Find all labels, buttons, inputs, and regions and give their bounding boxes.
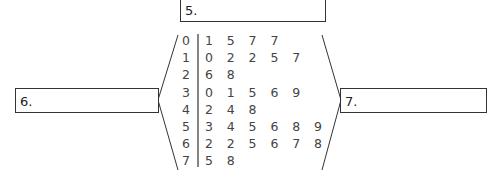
leaf-value: 4 — [225, 102, 237, 117]
stem-value: 5 — [180, 119, 192, 134]
leaf-value: 5 — [247, 136, 259, 151]
leaf-value: 5 — [203, 153, 215, 168]
box-label: 6. — [20, 94, 32, 109]
answer-box-6[interactable]: 6. — [15, 88, 159, 113]
leaf-value: 2 — [225, 136, 237, 151]
box-label: 5. — [185, 3, 197, 18]
stem-value: 6 — [180, 136, 192, 151]
leaf-value: 6 — [268, 136, 280, 151]
leaf-value: 8 — [290, 119, 302, 134]
leaf-value: 6 — [203, 67, 215, 82]
leaf-value: 6 — [268, 85, 280, 100]
stem-value: 2 — [180, 67, 192, 82]
answer-box-7[interactable]: 7. — [340, 88, 487, 113]
leaf-value: 8 — [312, 136, 324, 151]
stem-value: 1 — [180, 50, 192, 65]
leaf-value: 5 — [225, 33, 237, 48]
leaf-value: 9 — [290, 85, 302, 100]
leaf-value: 2 — [203, 102, 215, 117]
leaf-value: 2 — [203, 136, 215, 151]
stem-value: 4 — [180, 102, 192, 117]
leaf-value: 9 — [312, 119, 324, 134]
leaf-value: 7 — [290, 136, 302, 151]
leaf-value: 8 — [225, 153, 237, 168]
leaf-value: 2 — [225, 50, 237, 65]
leaf-value: 8 — [247, 102, 259, 117]
leaf-value: 1 — [203, 33, 215, 48]
leaf-value: 7 — [290, 50, 302, 65]
leaf-value: 0 — [203, 50, 215, 65]
leaf-value: 5 — [247, 119, 259, 134]
leaf-value: 7 — [268, 33, 280, 48]
stem-value: 0 — [180, 33, 192, 48]
leaf-value: 1 — [225, 85, 237, 100]
leaf-value: 3 — [203, 119, 215, 134]
leaf-value: 4 — [225, 119, 237, 134]
leaf-value: 2 — [247, 50, 259, 65]
stem-value: 7 — [180, 153, 192, 168]
leaf-value: 8 — [225, 67, 237, 82]
stem-value: 3 — [180, 85, 192, 100]
leaf-value: 0 — [203, 85, 215, 100]
answer-box-5[interactable]: 5. — [180, 0, 326, 22]
leaf-value: 6 — [268, 119, 280, 134]
leaf-value: 5 — [247, 85, 259, 100]
leaf-value: 7 — [247, 33, 259, 48]
leaf-value: 5 — [268, 50, 280, 65]
box-label: 7. — [345, 94, 357, 109]
